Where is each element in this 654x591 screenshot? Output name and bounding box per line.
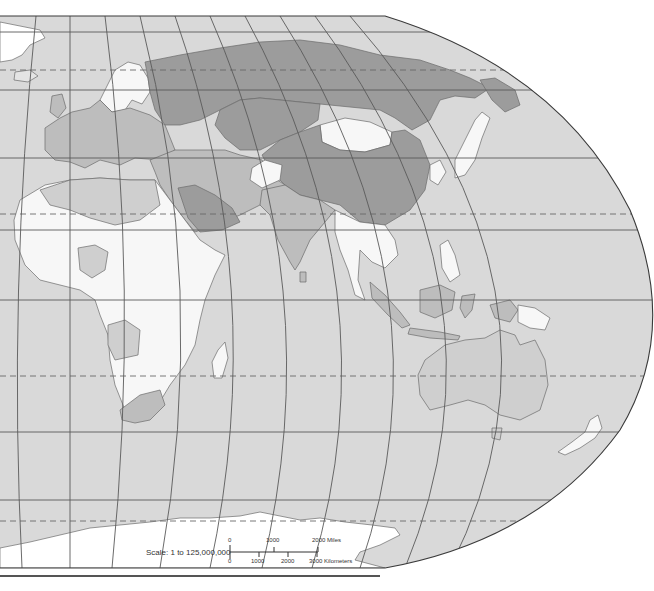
scale-km-1000: 1000 (251, 558, 264, 564)
scale-miles-2000: 2000 Miles (312, 537, 341, 543)
scale-km-0: 0 (228, 558, 231, 564)
scale-miles-1000: 1000 (266, 537, 279, 543)
scale-ratio-label: Scale: 1 to 125,000,000 (146, 548, 231, 557)
bottom-rule (0, 575, 380, 577)
scale-bar: 0 1000 2000 Miles 0 1000 2000 3000 Kilom… (226, 537, 356, 567)
world-map (0, 0, 654, 591)
sri-lanka (300, 272, 306, 282)
scale-km-2000: 2000 (281, 558, 294, 564)
scale-km-3000: 3000 Kilometers (309, 558, 352, 564)
scale-miles-0: 0 (228, 537, 231, 543)
tasmania (492, 428, 502, 440)
